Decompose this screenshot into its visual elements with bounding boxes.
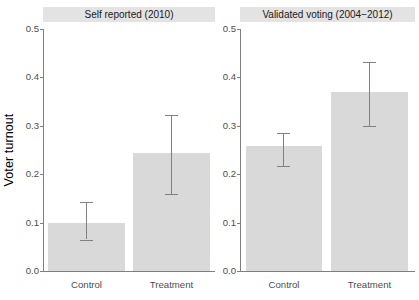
y-tick-mark [237,223,240,224]
errorbar-left-control-cap-top [80,202,93,203]
panel-right-plot-area [240,22,415,272]
errorbar-left-control-line [86,202,87,239]
y-tick-label-right-1: 0.4 [210,72,236,82]
y-tick-label-left-0: 0.5 [13,24,39,34]
panel-right-strip-title: Validated voting (2004−2012) [240,7,415,22]
panel-right-x-axis-line [240,271,415,272]
panel-right-y-axis-line [240,29,241,272]
errorbar-left-treatment-line [171,115,172,194]
x-tick-label-treatment: Treatment [133,279,210,290]
y-tick-label-right-0: 0.5 [210,24,236,34]
errorbar-right-control-cap-top [277,133,290,134]
errorbar-right-treatment-line [369,62,370,126]
y-tick-label-left-3: 0.2 [13,169,39,179]
panel-left-plot-area [43,22,215,272]
y-tick-mark [40,174,43,175]
chart-figure: Voter turnout Self reported (2010) [0,0,419,300]
y-tick-label-left-1: 0.4 [13,72,39,82]
x-tick-label-control: Control [48,279,125,290]
y-tick-label-right-5: 0.0 [210,266,236,276]
y-tick-label-right-2: 0.3 [210,121,236,131]
errorbar-right-treatment-cap-top [363,62,376,63]
y-tick-mark [237,271,240,272]
bar-right-control [246,146,322,271]
y-tick-mark [40,126,43,127]
x-tick-label-control: Control [246,279,322,290]
errorbar-right-treatment-cap-bottom [363,126,376,127]
panel-left-x-axis-line [43,271,215,272]
y-tick-label-right-3: 0.2 [210,169,236,179]
y-tick-label-left-5: 0.0 [13,266,39,276]
panel-left-strip-title: Self reported (2010) [43,7,215,22]
y-tick-label-left-2: 0.3 [13,121,39,131]
y-tick-label-right-4: 0.1 [210,218,236,228]
y-tick-mark [237,29,240,30]
errorbar-right-control-cap-bottom [277,166,290,167]
x-tick-label-treatment: Treatment [331,279,408,290]
errorbar-left-treatment-cap-top [165,115,178,116]
y-tick-mark [237,126,240,127]
y-tick-mark [40,29,43,30]
y-tick-mark [237,77,240,78]
y-tick-label-left-4: 0.1 [13,218,39,228]
y-axis-title: Voter turnout [0,0,18,300]
y-tick-mark [40,77,43,78]
errorbar-right-control-line [283,133,284,166]
y-tick-mark [40,271,43,272]
panel-left-y-axis-line [43,29,44,272]
errorbar-left-treatment-cap-bottom [165,194,178,195]
y-tick-mark [40,223,43,224]
errorbar-left-control-cap-bottom [80,240,93,241]
y-tick-mark [237,174,240,175]
